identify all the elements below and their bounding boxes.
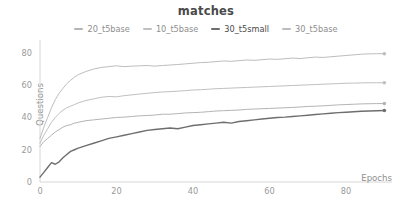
x-tick-20: 20	[111, 186, 121, 196]
legend-item-label: 10_t5base	[156, 24, 198, 34]
series-line-30_t5base	[40, 54, 384, 139]
series-endpoint-marker-30_t5base	[383, 52, 387, 56]
x-tick-80: 80	[341, 186, 351, 196]
series-endpoint-marker-30_t5small	[383, 109, 387, 113]
series-endpoint-marker-20_t5base	[383, 102, 387, 106]
y-tick-40: 40	[8, 112, 32, 122]
legend-item-30_t5small[interactable]: 30_t5small	[211, 24, 269, 34]
legend-swatch-icon	[143, 28, 152, 30]
x-axis-title: Epochs	[361, 173, 392, 183]
y-tick-0: 0	[8, 177, 32, 187]
chart-title: matches	[0, 4, 412, 18]
legend-item-10_t5base[interactable]: 10_t5base	[143, 24, 198, 34]
plot-area	[40, 40, 392, 182]
series-line-20_t5base	[40, 104, 384, 147]
x-axis-tick-labels: 020406080	[40, 186, 392, 200]
legend-item-label: 30_t5base	[295, 24, 337, 34]
legend-item-30_t5base[interactable]: 30_t5base	[282, 24, 337, 34]
chart-legend: 20_t5base10_t5base30_t5small30_t5base	[0, 24, 412, 34]
legend-swatch-icon	[74, 28, 83, 30]
legend-swatch-icon	[282, 28, 291, 30]
x-tick-60: 60	[264, 186, 274, 196]
series-svg	[40, 40, 392, 182]
y-axis-tick-labels: 020406080	[8, 40, 32, 182]
legend-swatch-icon	[211, 28, 220, 31]
legend-item-label: 20_t5base	[87, 24, 129, 34]
y-tick-60: 60	[8, 80, 32, 90]
x-tick-0: 0	[37, 186, 42, 196]
chart-container: matches 20_t5base10_t5base30_t5small30_t…	[0, 0, 412, 218]
series-endpoint-marker-10_t5base	[383, 81, 387, 85]
y-tick-80: 80	[8, 48, 32, 58]
legend-item-20_t5base[interactable]: 20_t5base	[74, 24, 129, 34]
y-tick-20: 20	[8, 145, 32, 155]
x-tick-40: 40	[188, 186, 198, 196]
legend-item-label: 30_t5small	[224, 24, 269, 34]
